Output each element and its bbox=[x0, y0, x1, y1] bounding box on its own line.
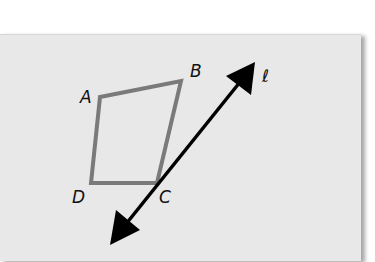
vertex-label-d: D bbox=[72, 187, 85, 207]
vertex-label-a: A bbox=[79, 87, 92, 107]
arrowhead-up-icon bbox=[226, 62, 255, 95]
quadrilateral-abcd bbox=[91, 81, 181, 183]
arrowhead-down-icon bbox=[110, 210, 140, 245]
vertex-label-b: B bbox=[190, 61, 202, 81]
vertex-label-c: C bbox=[159, 187, 171, 207]
line-l bbox=[126, 82, 240, 224]
line-label-l: ℓ bbox=[261, 66, 269, 86]
diagram-canvas: A B C D ℓ bbox=[0, 0, 375, 262]
